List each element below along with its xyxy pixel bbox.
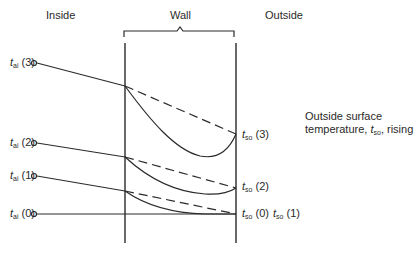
inside-film-line-3 [37, 63, 125, 86]
wall-brace [124, 27, 234, 37]
inside-label-0: tai (0) [10, 207, 35, 223]
outside-label-2: tso (2) [242, 180, 269, 196]
steady-state-line-3 [125, 86, 236, 134]
inside-film-line-2 [37, 143, 125, 157]
inside-film-line-1 [37, 176, 125, 191]
wall-temperature-diagram: Inside Wall Outside tai (3) tai (2) tai … [0, 0, 420, 262]
transient-curve-2 [125, 157, 236, 194]
steady-state-line-1 [125, 191, 236, 214]
inside-label-3: tai (3) [10, 56, 35, 72]
transient-curve-3 [125, 86, 236, 157]
inside-heading: Inside [46, 9, 75, 22]
wall-heading: Wall [170, 9, 191, 22]
outside-label-0: tso (0) [242, 207, 269, 223]
outside-label-1: tso (1) [273, 207, 300, 223]
annotation-text: Outside surface temperature, tso, rising [305, 110, 413, 139]
outside-heading: Outside [265, 9, 303, 22]
inside-label-2: tai (2) [10, 136, 35, 152]
steady-state-line-2 [125, 157, 236, 188]
inside-label-1: tai (1) [10, 169, 35, 185]
outside-label-3: tso (3) [242, 128, 269, 144]
